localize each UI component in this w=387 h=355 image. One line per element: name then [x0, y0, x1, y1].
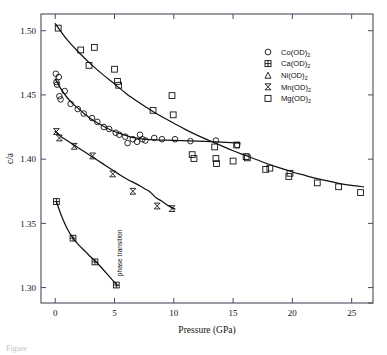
x-axis-title: Pressure (GPa) [178, 325, 235, 336]
x-tick-label: 15 [229, 308, 239, 318]
x-tick-label: 10 [169, 308, 179, 318]
legend-label-Ca(OD)2: Ca(OD)2 [281, 59, 310, 69]
y-axis-title: c/a [5, 152, 15, 164]
x-tick-label: 20 [288, 308, 298, 318]
figure-container: 0510152025 1.301.351.401.451.50 Co(OD)2C… [0, 0, 387, 355]
chart-background [0, 0, 387, 355]
legend-label-Mn(OD)2: Mn(OD)2 [281, 83, 311, 93]
x-tick-label: 5 [112, 308, 117, 318]
legend-label-Co(OD)2: Co(OD)2 [281, 48, 310, 58]
figure-caption: Figure [6, 344, 126, 354]
y-tick-label: 1.50 [20, 26, 36, 36]
y-tick-label: 1.30 [20, 283, 36, 293]
x-tick-label: 25 [347, 308, 357, 318]
annotation-phase-transition: phase transition [116, 229, 124, 276]
legend-label-Ni(OD)2: Ni(OD)2 [281, 71, 308, 81]
chart-annotations: phase transition [116, 229, 124, 276]
y-tick-label: 1.40 [20, 154, 36, 164]
x-tick-label: 0 [53, 308, 58, 318]
y-tick-label: 1.35 [20, 219, 36, 229]
y-tick-label: 1.45 [20, 90, 36, 100]
ca-vs-pressure-chart: 0510152025 1.301.351.401.451.50 Co(OD)2C… [0, 0, 387, 355]
legend-label-Mg(OD)2: Mg(OD)2 [281, 94, 311, 104]
